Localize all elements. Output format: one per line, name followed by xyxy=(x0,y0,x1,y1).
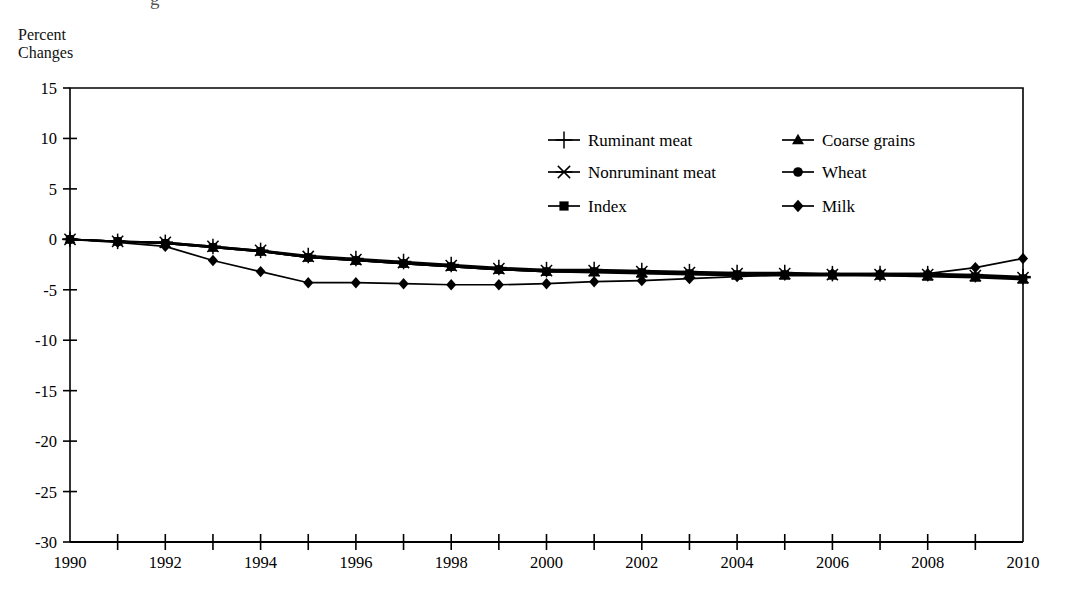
y-tick-label: -20 xyxy=(35,432,57,451)
legend-item-label: Nonruminant meat xyxy=(588,163,716,182)
legend-item-ruminant-meat: Ruminant meat xyxy=(548,131,693,150)
y-tick-label: 10 xyxy=(41,129,58,148)
legend-item-nonruminant-meat: Nonruminant meat xyxy=(548,163,716,182)
x-tick-label: 1992 xyxy=(149,553,182,572)
x-tick-label: 1996 xyxy=(339,553,372,572)
y-tick-label: -25 xyxy=(35,483,57,502)
y-tick-label: -30 xyxy=(35,533,57,552)
y-tick-label: -5 xyxy=(43,281,57,300)
x-tick-label: 2010 xyxy=(1007,553,1040,572)
x-tick-label: 2000 xyxy=(530,553,563,572)
x-tick-label: 2004 xyxy=(721,553,754,572)
y-tick-label: 0 xyxy=(49,230,57,249)
legend-item-milk: Milk xyxy=(782,197,856,216)
y-tick-label: -10 xyxy=(35,331,57,350)
x-tick-label: 2006 xyxy=(816,553,849,572)
legend-item-coarse-grains: Coarse grains xyxy=(782,131,915,150)
y-tick-label: 15 xyxy=(41,79,58,98)
x-tick-label: 2002 xyxy=(625,553,658,572)
series-layer xyxy=(62,232,1031,291)
x-tick-label: 1990 xyxy=(54,553,87,572)
legend-item-label: Index xyxy=(588,197,627,216)
legend-item-wheat: Wheat xyxy=(782,163,867,182)
cropped-title-fragment: g xyxy=(150,0,160,10)
legend-item-label: Ruminant meat xyxy=(588,131,693,150)
x-tick-label: 2008 xyxy=(911,553,944,572)
legend-item-index: Index xyxy=(548,197,627,216)
y-tick-label: 5 xyxy=(49,180,57,199)
legend-item-label: Coarse grains xyxy=(822,131,915,150)
legend-item-label: Milk xyxy=(822,197,856,216)
y-tick-label: -15 xyxy=(35,382,57,401)
x-tick-label: 1998 xyxy=(435,553,468,572)
x-tick-label: 1994 xyxy=(244,553,277,572)
chart-plot-area: 151050-5-10-15-20-25-3019901992199419961… xyxy=(0,0,1078,604)
axes-layer: 151050-5-10-15-20-25-3019901992199419961… xyxy=(35,79,1040,572)
legend-layer: Ruminant meatNonruminant meatIndexCoarse… xyxy=(548,131,915,216)
legend-item-label: Wheat xyxy=(822,163,867,182)
y-axis-title: Percent Changes xyxy=(18,26,73,62)
chart-figure: g Percent Changes 151050-5-10-15-20-25-3… xyxy=(0,0,1078,604)
